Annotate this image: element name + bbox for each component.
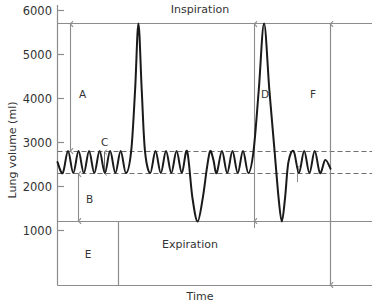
y-tick-label-6000: 6000 — [23, 4, 52, 18]
phase-label-expiration: Expiration — [162, 238, 218, 251]
y-tick-label-2000: 2000 — [23, 180, 52, 194]
annotation-C-label: C — [101, 136, 108, 148]
annotation-A-label: A — [79, 88, 87, 100]
y-axis-title: Lung volume (ml) — [6, 102, 19, 199]
phase-label-inspiration: Inspiration — [171, 3, 229, 16]
y-tick-label-1000: 1000 — [23, 224, 52, 238]
annotation-F-label: F — [310, 88, 316, 100]
y-tick-label-5000: 5000 — [23, 48, 52, 62]
y-tick-label-3000: 3000 — [23, 136, 52, 150]
y-tick-label-4000: 4000 — [23, 92, 52, 106]
annotation-B-label: B — [86, 193, 93, 205]
annotation-E-label: E — [85, 248, 92, 260]
spirogram-figure: 6000 5000 4000 3000 2000 1000 Lung volum… — [0, 0, 372, 302]
spirogram-svg: 6000 5000 4000 3000 2000 1000 Lung volum… — [0, 0, 372, 302]
annotation-D-label: D — [261, 88, 269, 100]
x-axis-title: Time — [186, 290, 214, 302]
